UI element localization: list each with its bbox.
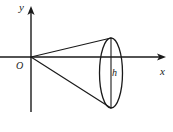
cone-lower-slant-line xyxy=(31,57,111,108)
height-label: h xyxy=(112,67,117,78)
x-axis xyxy=(0,53,166,60)
cone-shape xyxy=(31,38,123,108)
origin-label: O xyxy=(16,60,23,71)
y-axis-label: y xyxy=(19,2,24,13)
cone-diagram-figure: y x O h xyxy=(0,0,173,132)
x-axis-label: x xyxy=(160,66,165,77)
cone-upper-slant-line xyxy=(31,38,111,57)
cone-diagram-canvas xyxy=(0,0,173,132)
